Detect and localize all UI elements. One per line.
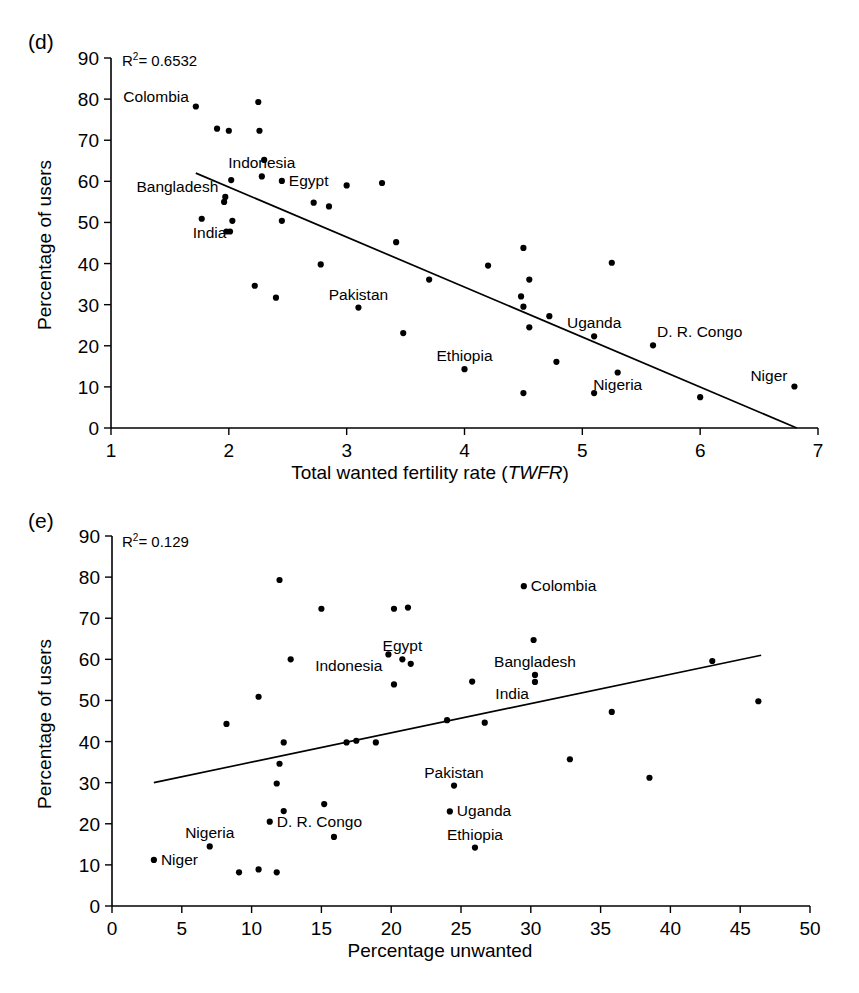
data-point: [273, 295, 279, 301]
svg-e-y-tick-label: 80: [79, 567, 100, 588]
point-label-ethiopia: Ethiopia: [447, 826, 503, 843]
data-point: [379, 180, 385, 186]
svg-e-y-tick-label: 70: [79, 608, 100, 629]
data-point: [318, 261, 324, 267]
data-point: [546, 313, 552, 319]
data-point: [697, 394, 703, 400]
svg-d-x-tick-label: 1: [106, 440, 117, 461]
data-point: [255, 694, 261, 700]
point-label-uganda: Uganda: [567, 314, 622, 331]
data-point: [709, 658, 715, 664]
data-point: [255, 99, 261, 105]
data-point: [447, 808, 453, 814]
data-point: [331, 834, 337, 840]
data-point: [252, 283, 258, 289]
svg-d-y-tick-label: 30: [78, 295, 99, 316]
data-point: [444, 717, 450, 723]
panel-e: (e) R2= 0.129 Percentage of users Percen…: [0, 497, 859, 993]
svg-d-y-tick-label: 50: [78, 212, 99, 233]
data-point: [393, 239, 399, 245]
data-point: [485, 263, 491, 269]
svg-e-x-tick-label: 0: [107, 918, 118, 939]
figure-container: (d) R2= 0.6532 Percentage of users Total…: [0, 0, 859, 993]
data-point: [408, 661, 414, 667]
data-point: [405, 604, 411, 610]
data-point: [193, 103, 199, 109]
data-point: [399, 656, 405, 662]
data-point: [355, 304, 361, 310]
data-point: [207, 843, 213, 849]
data-point: [344, 182, 350, 188]
panel-d-plot-area: 01020304050607080901234567ColombiaIndone…: [0, 0, 859, 497]
svg-e-x-tick-label: 50: [799, 918, 820, 939]
data-point: [521, 583, 527, 589]
svg-d-x-tick-label: 3: [341, 440, 352, 461]
point-label-uganda: Uganda: [457, 802, 512, 819]
point-label-indonesia: Indonesia: [315, 657, 383, 674]
data-point: [553, 359, 559, 365]
svg-d-y-tick-label: 80: [78, 89, 99, 110]
data-point: [526, 276, 532, 282]
point-label-colombia: Colombia: [531, 577, 597, 594]
data-point: [520, 390, 526, 396]
point-label-india: India: [495, 685, 529, 702]
data-point: [591, 390, 597, 396]
panel-e-plot-area: 010203040506070809005101520253035404550C…: [0, 497, 859, 993]
data-point: [646, 775, 652, 781]
data-point: [326, 203, 332, 209]
point-label-india: India: [193, 224, 227, 241]
panel-d: (d) R2= 0.6532 Percentage of users Total…: [0, 0, 859, 497]
point-label-nigeria: Nigeria: [593, 376, 642, 393]
data-point: [279, 178, 285, 184]
svg-d-x-tick-label: 5: [577, 440, 588, 461]
data-point: [281, 739, 287, 745]
data-point: [226, 128, 232, 134]
data-point: [321, 801, 327, 807]
svg-d-y-tick-label: 10: [78, 377, 99, 398]
point-label-bangladesh: Bangladesh: [494, 653, 576, 670]
data-point: [532, 679, 538, 685]
svg-d-x-tick-label: 7: [813, 440, 824, 461]
point-label-indonesia: Indonesia: [228, 154, 296, 171]
point-label-nigeria: Nigeria: [185, 824, 234, 841]
data-point: [255, 866, 261, 872]
point-label-egypt: Egypt: [383, 637, 423, 654]
point-label-niger: Niger: [161, 851, 198, 868]
svg-d-x-tick-label: 4: [459, 440, 470, 461]
svg-e-y-tick-label: 10: [79, 855, 100, 876]
point-label-pakistan: Pakistan: [329, 286, 388, 303]
svg-e-x-tick-label: 5: [177, 918, 188, 939]
data-point: [518, 293, 524, 299]
data-point: [311, 200, 317, 206]
data-point: [426, 276, 432, 282]
svg-e-y-tick-label: 40: [79, 732, 100, 753]
data-point: [391, 681, 397, 687]
data-point: [228, 177, 234, 183]
svg-e-x-tick-label: 30: [520, 918, 541, 939]
svg-e-x-tick-label: 25: [450, 918, 471, 939]
data-point: [267, 819, 273, 825]
svg-e-y-tick-label: 30: [79, 773, 100, 794]
data-point: [229, 218, 235, 224]
data-point: [256, 128, 262, 134]
data-point: [353, 738, 359, 744]
data-point: [520, 304, 526, 310]
svg-d-x-tick-label: 2: [224, 440, 235, 461]
data-point: [199, 216, 205, 222]
svg-e-y-tick-label: 0: [89, 896, 100, 917]
svg-d-y-tick-label: 60: [78, 171, 99, 192]
svg-d-y-tick-label: 0: [88, 418, 99, 439]
svg-e-y-tick-label: 90: [79, 526, 100, 547]
data-point: [276, 761, 282, 767]
svg-e-y-tick-label: 20: [79, 814, 100, 835]
data-point: [259, 173, 265, 179]
svg-d-y-tick-label: 70: [78, 130, 99, 151]
data-point: [530, 637, 536, 643]
data-point: [343, 739, 349, 745]
data-point: [223, 721, 229, 727]
svg-e-x-tick-label: 40: [660, 918, 681, 939]
data-point: [288, 656, 294, 662]
point-label-ethiopia: Ethiopia: [436, 347, 492, 364]
data-point: [279, 218, 285, 224]
data-point: [526, 324, 532, 330]
